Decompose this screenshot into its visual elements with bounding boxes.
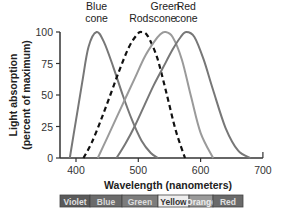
- y-tick-label: 0: [47, 152, 53, 164]
- red-cone-curve: [117, 32, 251, 158]
- y-tick-label: 100: [35, 26, 53, 38]
- band-label-yellow: Yellow: [160, 197, 187, 207]
- y-axis-title: Light absorption: [7, 54, 19, 137]
- x-tick-label: 400: [67, 164, 85, 176]
- x-axis-title: Wavelength (nanometers): [104, 179, 232, 191]
- y-tick-label: 75: [41, 58, 53, 70]
- y-tick-label: 50: [41, 89, 53, 101]
- blue-cone-label: Blue: [86, 0, 107, 12]
- blue-cone-label: cone: [85, 12, 108, 24]
- band-label-violet: Violet: [64, 197, 87, 207]
- absorption-spectrum-chart: 0255075100 400500600700 BlueconeRodsGree…: [0, 0, 281, 218]
- y-axis-subtitle: (percent of maximum): [20, 40, 32, 150]
- red-cone-label: Red: [177, 0, 196, 12]
- x-tick-label: 700: [254, 164, 272, 176]
- y-tick-label: 25: [41, 121, 53, 133]
- green-cone-label: cone: [154, 12, 177, 24]
- rods-curve: [84, 32, 186, 158]
- absorption-curves: [70, 32, 251, 158]
- band-label-red: Red: [220, 197, 236, 207]
- red-cone-label: cone: [175, 12, 198, 24]
- x-axis: 400500600700: [60, 152, 272, 176]
- curve-labels: BlueconeRodsGreenconeRedcone: [85, 0, 198, 24]
- blue-cone-curve: [70, 32, 158, 158]
- y-axis: 0255075100: [35, 26, 60, 164]
- band-label-orange: Orange: [186, 197, 216, 207]
- band-label-blue: Blue: [97, 197, 116, 207]
- x-tick-label: 600: [192, 164, 210, 176]
- spectrum-color-bar: VioletBlueGreenYellowOrangeRed: [60, 195, 243, 207]
- band-label-green: Green: [128, 197, 153, 207]
- x-tick-label: 500: [130, 164, 148, 176]
- green-cone-label: Green: [150, 0, 179, 12]
- rods-label: Rods: [129, 12, 154, 24]
